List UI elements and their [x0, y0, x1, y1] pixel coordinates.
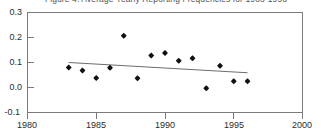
- y-tick-label-0-0: 0.0: [0, 82, 22, 92]
- chart-figure: Figure 4. Average Yearly Reporting Frequ…: [0, 0, 332, 137]
- data-point: [217, 63, 223, 69]
- data-point: [93, 75, 99, 81]
- data-points: [66, 33, 251, 91]
- data-point: [162, 50, 168, 56]
- data-point: [203, 85, 209, 91]
- x-tick-label-1990: 1990: [148, 120, 182, 130]
- y-tick-label-0-2: 0.2: [0, 32, 22, 42]
- data-point: [107, 65, 113, 71]
- data-point: [80, 68, 86, 74]
- y-tick-label-0-1: 0.1: [0, 57, 22, 67]
- x-axis-ticks: [28, 113, 303, 119]
- data-point: [231, 78, 237, 84]
- y-tick-label-0-3: 0.3: [0, 7, 22, 17]
- data-point: [135, 75, 141, 81]
- data-point: [245, 78, 251, 84]
- x-tick-label-1980: 1980: [10, 120, 44, 130]
- y-tick-label-neg-0-1: -0.1: [0, 107, 20, 117]
- x-tick-label-2000: 2000: [285, 120, 319, 130]
- plot-area: [0, 0, 332, 137]
- data-point: [148, 53, 154, 59]
- x-tick-label-1985: 1985: [79, 120, 113, 130]
- y-axis-ticks: [28, 13, 34, 113]
- data-point: [121, 33, 127, 39]
- data-point: [176, 58, 182, 64]
- data-point: [190, 55, 196, 61]
- data-point: [66, 65, 72, 71]
- x-tick-label-1995: 1995: [217, 120, 251, 130]
